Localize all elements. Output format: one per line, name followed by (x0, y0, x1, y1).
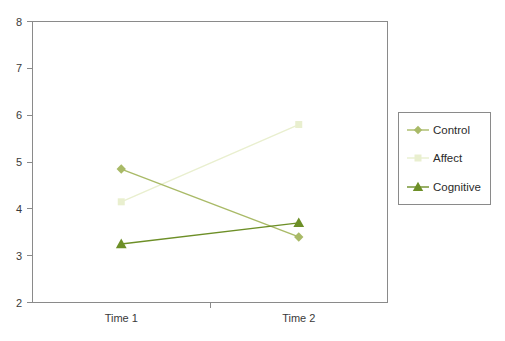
plot-frame (33, 22, 388, 303)
y-axis-label-5: 5 (16, 156, 22, 168)
x-axis-label-time1: Time 1 (105, 312, 138, 324)
plot-border (33, 22, 388, 303)
series-control (117, 164, 304, 241)
y-axis-label-8: 8 (16, 16, 22, 28)
y-axis-label-2: 2 (16, 297, 22, 309)
y-axis-label-4: 4 (16, 203, 22, 215)
y-axis-labels: 8 7 6 5 4 3 2 (16, 16, 22, 309)
y-axis-label-6: 6 (16, 109, 22, 121)
line-chart: 8 7 6 5 4 3 2 Time 1 Time 2 (0, 0, 505, 341)
x-axis-labels: Time 1 Time 2 (105, 312, 316, 324)
legend-label-control: Control (433, 124, 470, 136)
legend-swatch-marker-affect (415, 155, 422, 162)
y-axis-label-7: 7 (16, 62, 22, 74)
series-cognitive-marker-time2 (293, 217, 304, 227)
series-control-marker-time2 (294, 232, 303, 241)
series-affect-line (121, 125, 299, 202)
chart-canvas: 8 7 6 5 4 3 2 Time 1 Time 2 (0, 0, 505, 341)
y-axis-ticks (27, 22, 32, 303)
series-affect-marker-time1 (118, 198, 125, 205)
series-affect (118, 121, 303, 205)
series-cognitive-line (121, 223, 299, 244)
chart-legend: Control Affect Cognitive (399, 113, 491, 205)
series-affect-marker-time2 (295, 121, 302, 128)
legend-label-cognitive: Cognitive (433, 181, 481, 193)
legend-label-affect: Affect (433, 152, 463, 164)
x-axis-label-time2: Time 2 (282, 312, 315, 324)
y-axis-label-3: 3 (16, 250, 22, 262)
series-control-marker-time1 (117, 164, 126, 173)
series-cognitive (116, 217, 304, 248)
